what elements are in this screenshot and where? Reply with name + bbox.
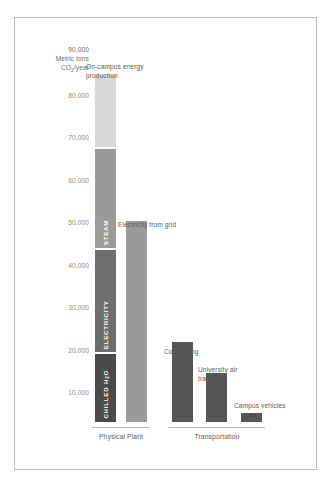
y-tick-40000: 40,000 xyxy=(25,262,89,269)
y-tick-70000: 70,000 xyxy=(25,134,89,141)
y-tick-10000: 10,000 xyxy=(25,389,89,396)
caption-university-air-travel: University air travel xyxy=(198,366,264,383)
y-tick-50000: 50,000 xyxy=(25,219,89,226)
bar-electricity-from-grid[interactable] xyxy=(126,221,147,422)
segment-top-unlabeled[interactable] xyxy=(95,75,116,147)
y-axis-header: 90,000 Metric tons CO2/year xyxy=(25,45,89,76)
group-rule-physical-plant xyxy=(92,427,150,428)
segment-chilled-water[interactable]: CHILLED H2O xyxy=(95,354,116,422)
segment-chilled-water-label: CHILLED H2O xyxy=(102,370,109,419)
plot-area: 90,000 Metric tons CO2/year 80,000 70,00… xyxy=(15,18,316,469)
group-label-physical-plant: Physical Plant xyxy=(80,432,162,441)
caption-campus-vehicles: Campus vehicles xyxy=(234,402,314,411)
y-axis-unit-line-2: CO2/year xyxy=(25,63,89,76)
segment-steam-label: STEAM xyxy=(102,220,108,245)
group-label-transportation: Transportation xyxy=(167,432,267,441)
y-tick-60000: 60,000 xyxy=(25,177,89,184)
y-axis-unit-line-1: Metric tons xyxy=(25,54,89,63)
y-tick-30000: 30,000 xyxy=(25,304,89,311)
caption-on-campus-energy-production: On-campus energy production xyxy=(86,63,178,80)
y-tick-80000: 80,000 xyxy=(25,92,89,99)
bar-campus-vehicles[interactable] xyxy=(241,413,262,422)
chart-frame: 90,000 Metric tons CO2/year 80,000 70,00… xyxy=(14,17,317,470)
y-tick-20000: 20,000 xyxy=(25,347,89,354)
bar-on-campus-energy-production[interactable]: STEAM ELECTRICITY CHILLED H2O xyxy=(95,75,116,422)
caption-electricity-from-grid: Electricity from grid xyxy=(118,221,214,230)
segment-electricity[interactable]: ELECTRICITY xyxy=(95,250,116,352)
segment-steam[interactable]: STEAM xyxy=(95,149,116,248)
segment-electricity-label: ELECTRICITY xyxy=(102,300,108,349)
y-axis-top-value: 90,000 xyxy=(68,46,89,53)
group-rule-transportation xyxy=(169,427,265,428)
caption-commuting: Commuting xyxy=(164,348,244,357)
